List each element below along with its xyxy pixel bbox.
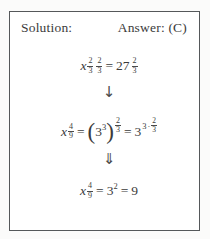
equation-3: x49=32=9 <box>80 182 138 201</box>
fraction: 23 <box>115 117 121 136</box>
math-column: x2323=2723 ↓ x49=(33)23=33·23 ⇓ x49=32=9 <box>10 36 199 201</box>
eq3-result: 9 <box>131 183 138 198</box>
solution-box: Solution: Answer: (C) x2323=2723 ↓ x49=(… <box>9 11 200 231</box>
header-row: Solution: Answer: (C) <box>10 12 199 36</box>
equals-sign: = <box>93 183 107 198</box>
down-arrow-icon: ↓ <box>103 85 116 100</box>
fraction: 23 <box>151 117 157 135</box>
eq3-base-x: x <box>80 183 86 198</box>
eq2-rhs-base: 3 <box>135 124 142 139</box>
equation-1: x2323=2723 <box>80 57 137 76</box>
eq1-base-x: x <box>80 58 86 73</box>
equals-sign: = <box>74 124 88 139</box>
multiply-dot: · <box>148 122 151 131</box>
equation-2: x49=(33)23=33·23 <box>61 117 157 142</box>
equals-sign: = <box>102 58 116 73</box>
eq2-base-x: x <box>61 124 67 139</box>
fraction: 23 <box>132 57 138 76</box>
eq2-inner-base: 3 <box>95 124 102 139</box>
answer-label: Answer: (C) <box>118 20 187 36</box>
fraction: 49 <box>68 123 74 142</box>
equals-sign: = <box>121 124 135 139</box>
equals-sign: = <box>118 183 132 198</box>
eq1-rhs-base: 27 <box>116 58 130 73</box>
close-paren: ) <box>106 119 114 144</box>
fraction: 23 <box>87 57 93 76</box>
double-down-arrow-icon: ⇓ <box>103 152 116 167</box>
eq3-mid-exponent: 2 <box>113 181 117 191</box>
eq1-exponent: 2323 <box>87 57 102 76</box>
eq2-rhs-exponent: 3·23 <box>142 117 157 135</box>
solution-label: Solution: <box>21 20 72 36</box>
